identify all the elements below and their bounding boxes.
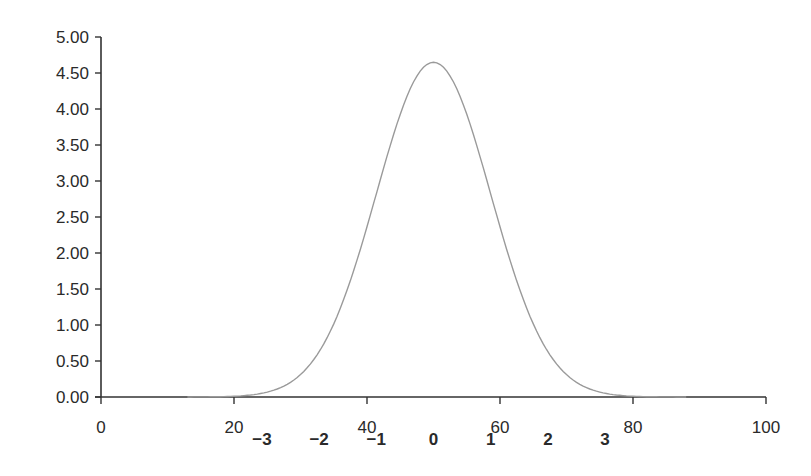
y-tick-label: 0.50	[56, 352, 89, 371]
y-tick-label: 4.00	[56, 100, 89, 119]
y-tick-label: 2.50	[56, 208, 89, 227]
x-tick-label: 80	[624, 418, 643, 437]
y-tick-label: 1.50	[56, 280, 89, 299]
plot-area	[187, 62, 686, 397]
normal-curve-line	[187, 62, 686, 397]
x-tick-label: 100	[752, 418, 780, 437]
z-score-label: 3	[600, 430, 609, 449]
y-tick-label: 0.00	[56, 388, 89, 407]
y-tick-label: 1.00	[56, 316, 89, 335]
y-tick-label: 3.00	[56, 172, 89, 191]
z-score-label: 0	[429, 430, 438, 449]
normal-distribution-chart: 0.000.501.001.502.002.503.003.504.004.50…	[0, 0, 811, 476]
x-tick-label: 0	[96, 418, 105, 437]
z-score-label: −2	[309, 430, 328, 449]
z-score-labels: −3−2−10123	[252, 430, 610, 449]
z-score-label: 1	[486, 430, 495, 449]
y-tick-label: 3.50	[56, 136, 89, 155]
y-tick-label: 4.50	[56, 64, 89, 83]
x-tick-label: 20	[225, 418, 244, 437]
z-score-label: −1	[367, 430, 386, 449]
y-tick-label: 2.00	[56, 244, 89, 263]
z-score-label: 2	[543, 430, 552, 449]
y-tick-label: 5.00	[56, 28, 89, 47]
y-axis: 0.000.501.001.502.002.503.003.504.004.50…	[56, 28, 101, 407]
z-score-label: −3	[252, 430, 271, 449]
